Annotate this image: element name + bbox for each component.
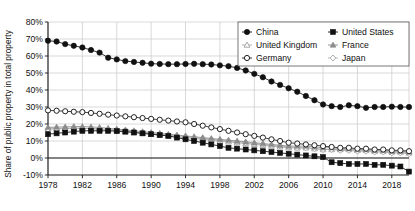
legend-label: United States xyxy=(342,27,394,37)
y-tick-label: 0% xyxy=(31,153,44,163)
y-tick-label: 50% xyxy=(26,68,44,78)
legend-label: Germany xyxy=(256,53,292,63)
y-tick-label: 70% xyxy=(26,34,44,44)
y-tick-label: 40% xyxy=(26,85,44,95)
x-tick-label: 2014 xyxy=(348,180,367,190)
y-tick-label: -10% xyxy=(23,170,43,180)
y-tick-label: 80% xyxy=(26,17,44,27)
x-tick-label: 1998 xyxy=(210,180,229,190)
x-tick-label: 1978 xyxy=(38,180,57,190)
y-tick-label: 30% xyxy=(26,102,44,112)
x-tick-label: 2006 xyxy=(279,180,298,190)
x-tick-label: 1990 xyxy=(142,180,161,190)
line-chart: 80%70%60%50%40%30%20%10%0%-10% 197819821… xyxy=(0,0,415,211)
legend-label: United Kingdom xyxy=(256,40,317,50)
chart-container: 80%70%60%50%40%30%20%10%0%-10% 197819821… xyxy=(0,0,415,211)
chart-legend: ChinaUnited StatesUnited KingdomFranceGe… xyxy=(238,22,409,66)
x-tick-label: 2002 xyxy=(245,180,264,190)
x-tick-label: 2018 xyxy=(382,180,401,190)
legend-label: France xyxy=(342,40,369,50)
x-tick-label: 2010 xyxy=(313,180,332,190)
x-tick-label: 1982 xyxy=(73,180,92,190)
legend-label: China xyxy=(256,27,279,37)
x-axis: 1978198219861990199419982002200620102014… xyxy=(38,175,409,190)
x-tick-label: 1986 xyxy=(107,180,126,190)
y-axis-title: Share of public property in total proper… xyxy=(3,29,13,177)
x-tick-label: 1994 xyxy=(176,180,195,190)
y-tick-label: 60% xyxy=(26,51,44,61)
y-tick-label: 20% xyxy=(26,119,44,129)
legend-label: Japan xyxy=(342,53,366,63)
y-tick-label: 10% xyxy=(26,136,44,146)
